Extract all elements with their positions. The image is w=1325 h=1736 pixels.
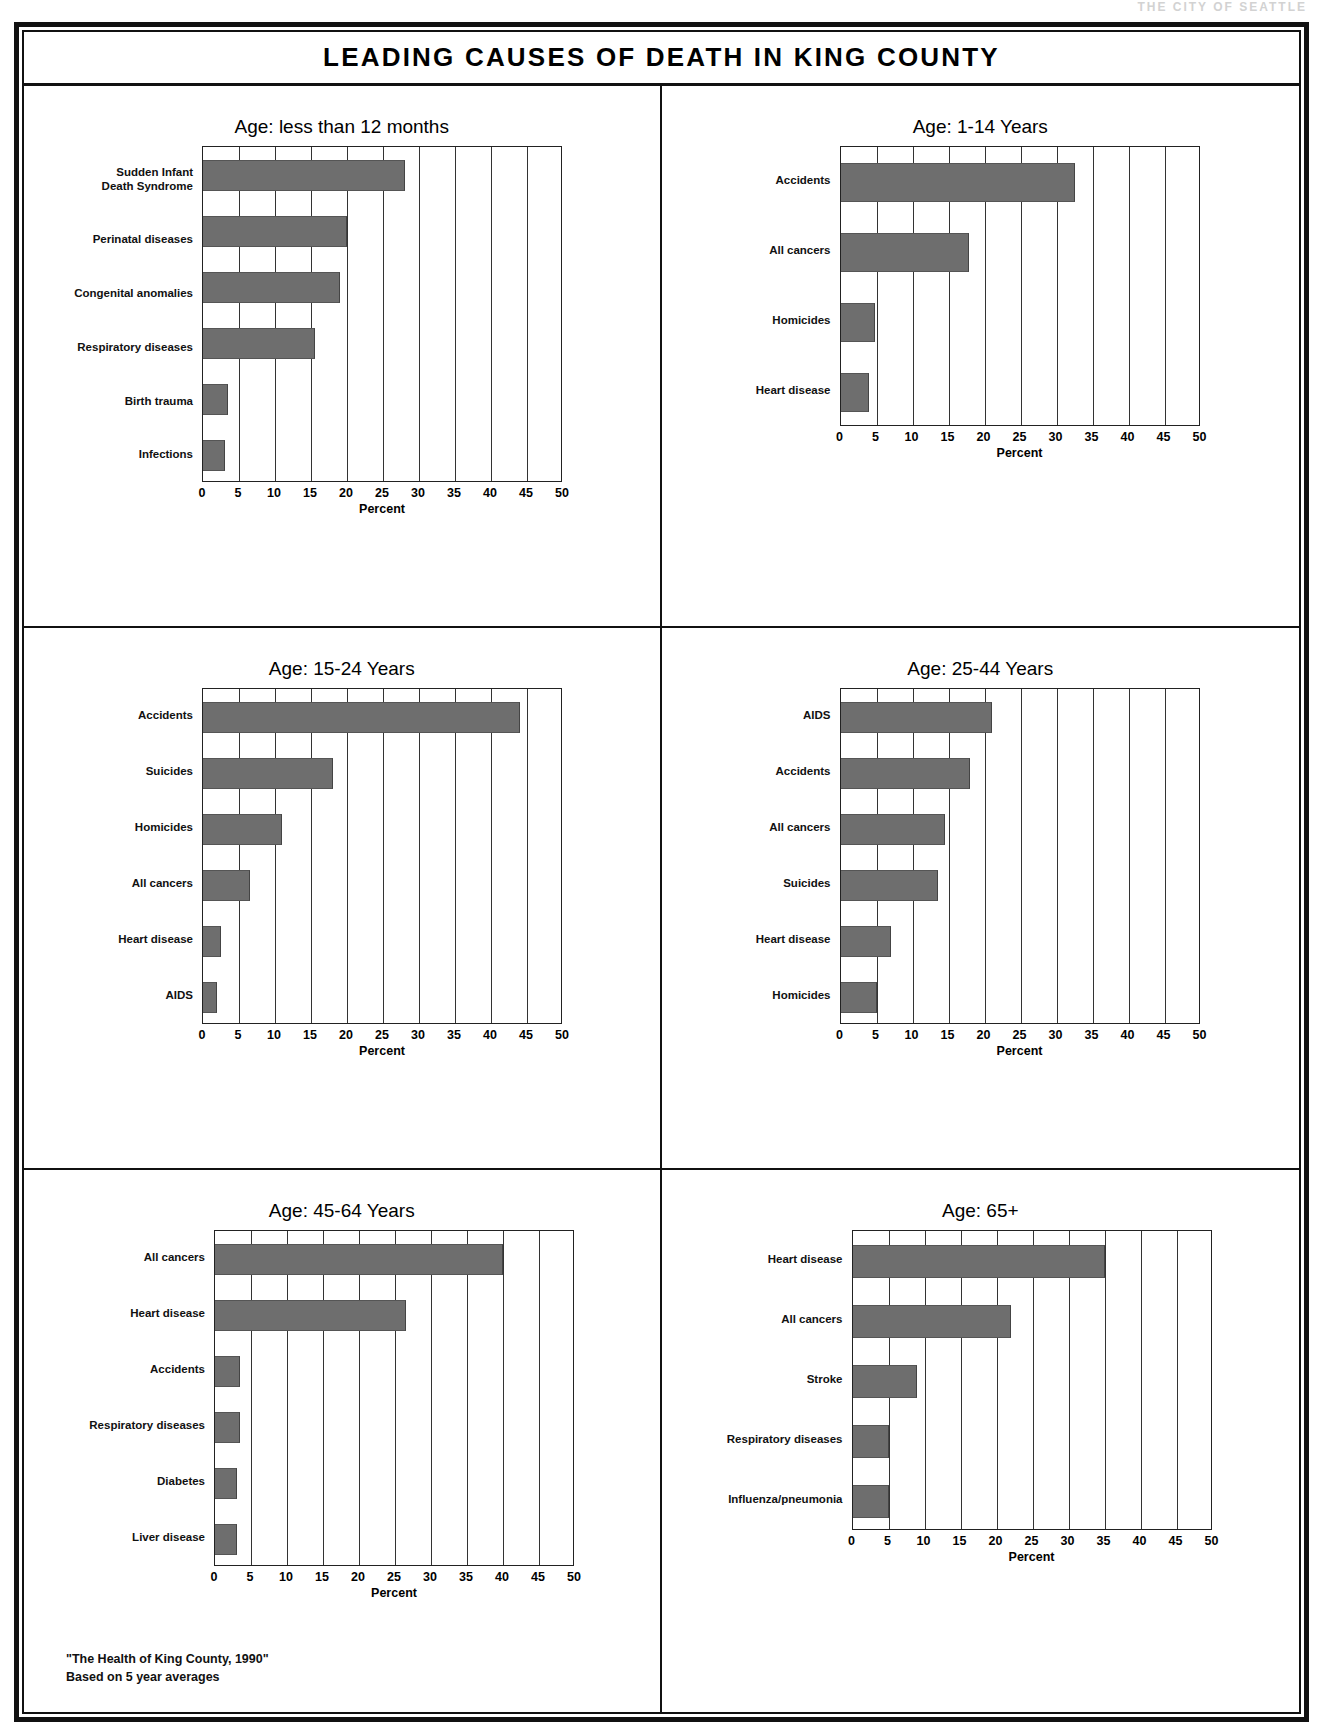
category-label: Congenital anomalies [24, 287, 193, 301]
chart-panel-4: Age: 25-44 YearsAIDSAccidentsAll cancers… [662, 628, 1300, 1170]
gridline [527, 147, 528, 481]
x-tick-label: 45 [519, 1028, 533, 1042]
bar [215, 1244, 503, 1275]
bar [203, 328, 315, 359]
gridline [395, 1231, 396, 1565]
x-axis-title: Percent [997, 1044, 1043, 1058]
category-label: Respiratory diseases [24, 341, 193, 355]
category-label: Heart disease [662, 384, 831, 398]
footnote-line-1: "The Health of King County, 1990" [66, 1650, 269, 1668]
x-tick-label: 20 [351, 1570, 365, 1584]
category-label: All cancers [662, 1313, 843, 1327]
x-tick-label: 20 [977, 430, 991, 444]
bar [841, 870, 938, 901]
x-tick-label: 50 [1205, 1534, 1219, 1548]
gridline [467, 1231, 468, 1565]
x-tick-label: 40 [1121, 430, 1135, 444]
category-label: Perinatal diseases [24, 233, 193, 247]
plot-area [840, 146, 1200, 426]
gridline [985, 689, 986, 1023]
x-tick-label: 35 [447, 486, 461, 500]
category-label: Accidents [24, 709, 193, 723]
bar [841, 814, 945, 845]
gridline [503, 1231, 504, 1565]
plot-area [214, 1230, 574, 1566]
category-label: Heart disease [24, 933, 193, 947]
x-tick-label: 50 [555, 1028, 569, 1042]
chart-body: Sudden InfantDeath SyndromePerinatal dis… [24, 146, 660, 482]
gridline [1105, 1231, 1106, 1529]
x-tick-label: 10 [905, 1028, 919, 1042]
x-tick-label: 35 [459, 1570, 473, 1584]
source-footnote: "The Health of King County, 1990" Based … [66, 1650, 269, 1686]
category-label: AIDS [24, 989, 193, 1003]
x-tick-label: 30 [1049, 1028, 1063, 1042]
category-axis-labels: AccidentsAll cancersHomicidesHeart disea… [662, 146, 840, 426]
bar [841, 233, 969, 272]
category-axis-labels: Heart diseaseAll cancersStrokeRespirator… [662, 1230, 852, 1530]
x-tick-label: 40 [1121, 1028, 1135, 1042]
x-tick-label: 0 [199, 486, 206, 500]
gridline [275, 147, 276, 481]
category-label: All cancers [662, 244, 831, 258]
x-tick-label: 5 [872, 1028, 879, 1042]
gridline [383, 689, 384, 1023]
gridline [455, 147, 456, 481]
category-label: Stroke [662, 1373, 843, 1387]
x-axis-title: Percent [371, 1586, 417, 1600]
gridline [913, 689, 914, 1023]
category-label: Sudden InfantDeath Syndrome [24, 166, 193, 193]
category-axis-labels: All cancersHeart diseaseAccidentsRespira… [24, 1230, 214, 1566]
gridline [419, 689, 420, 1023]
x-tick-label: 5 [884, 1534, 891, 1548]
chart-panel-1: Age: less than 12 monthsSudden InfantDea… [24, 86, 662, 628]
x-tick-label: 10 [267, 486, 281, 500]
gridline [383, 147, 384, 481]
x-tick-label: 15 [315, 1570, 329, 1584]
x-axis: 05101520253035404550Percent [840, 426, 1200, 460]
bar [203, 272, 340, 303]
gridline [1177, 1231, 1178, 1529]
x-tick-label: 30 [411, 1028, 425, 1042]
chart-title: Age: 1-14 Years [662, 116, 1300, 138]
plot-area [852, 1230, 1212, 1530]
poster-page: THE CITY OF SEATTLE LEADING CAUSES OF DE… [0, 0, 1325, 1736]
footnote-line-2: Based on 5 year averages [66, 1668, 269, 1686]
plot-area [840, 688, 1200, 1024]
x-tick-label: 0 [211, 1570, 218, 1584]
bar [215, 1300, 406, 1331]
bar [203, 870, 250, 901]
x-tick-label: 20 [339, 1028, 353, 1042]
bar [215, 1356, 240, 1387]
category-label: All cancers [24, 1251, 205, 1265]
chart-body: All cancersHeart diseaseAccidentsRespira… [24, 1230, 660, 1566]
category-label: Homicides [662, 989, 831, 1003]
category-label: Infections [24, 448, 193, 462]
bar [203, 384, 228, 415]
plot-area [202, 146, 562, 482]
x-tick-label: 30 [423, 1570, 437, 1584]
x-tick-label: 30 [1061, 1534, 1075, 1548]
x-tick-label: 5 [247, 1570, 254, 1584]
gridline [949, 689, 950, 1023]
bar [853, 1245, 1105, 1278]
category-label: Homicides [24, 821, 193, 835]
x-tick-label: 50 [1193, 1028, 1207, 1042]
gridline [1165, 147, 1166, 425]
bar [215, 1412, 240, 1443]
bar [203, 702, 520, 733]
x-tick-label: 25 [375, 486, 389, 500]
gridline [323, 1231, 324, 1565]
x-tick-label: 15 [303, 1028, 317, 1042]
chart-body: AccidentsAll cancersHomicidesHeart disea… [662, 146, 1300, 426]
chart-title: Age: 15-24 Years [24, 658, 660, 680]
category-label: Heart disease [662, 1253, 843, 1267]
x-tick-label: 0 [836, 1028, 843, 1042]
gridline [275, 689, 276, 1023]
poster-frame: LEADING CAUSES OF DEATH IN KING COUNTY A… [14, 22, 1309, 1722]
poster-inner-frame: LEADING CAUSES OF DEATH IN KING COUNTY A… [22, 30, 1301, 1714]
gridline [491, 689, 492, 1023]
gridline [1093, 147, 1094, 425]
chart-body: AIDSAccidentsAll cancersSuicidesHeart di… [662, 688, 1300, 1024]
x-tick-label: 20 [339, 486, 353, 500]
